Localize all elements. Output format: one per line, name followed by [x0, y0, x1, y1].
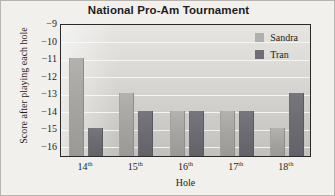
x-tick-suffix: th	[288, 160, 293, 167]
x-tick-number: 17	[228, 161, 238, 172]
bar-sandra-17th	[220, 111, 235, 157]
x-axis-tick-label: 18th	[278, 161, 293, 172]
x-axis-tick-labels: 14th15th16th17th18th	[60, 161, 311, 175]
x-tick-suffix: th	[88, 160, 93, 167]
plot-area: SandraTran	[60, 24, 311, 157]
y-axis-tick-label: −12	[25, 72, 57, 82]
bar-sandra-18th	[270, 128, 285, 156]
bar-sandra-15th	[119, 93, 134, 156]
y-axis-tick-label: −14	[25, 107, 57, 117]
x-axis-tick-label: 14th	[78, 161, 93, 172]
x-tick-number: 14	[78, 161, 88, 172]
x-axis-tick-label: 15th	[128, 161, 143, 172]
bar-tran-14th	[88, 128, 103, 156]
bar-tran-15th	[138, 111, 153, 157]
legend-label: Sandra	[270, 32, 298, 43]
legend-label: Tran	[270, 49, 289, 60]
y-axis-tick-label: −16	[25, 142, 57, 152]
legend: SandraTran	[255, 32, 298, 60]
x-tick-number: 15	[128, 161, 138, 172]
x-tick-number: 18	[278, 161, 288, 172]
bar-sandra-16th	[170, 111, 185, 157]
chart-screenshot: National Pro-Am Tournament Score after p…	[0, 0, 335, 196]
y-axis-tick-label: −15	[25, 124, 57, 134]
y-axis-tick-labels: −9−10−11−12−13−14−15−16	[25, 19, 57, 157]
x-axis-tick-label: 16th	[178, 161, 193, 172]
legend-swatch-icon	[255, 33, 264, 42]
bar-tran-18th	[289, 93, 304, 156]
legend-swatch-icon	[255, 50, 264, 59]
chart-title: National Pro-Am Tournament	[1, 4, 335, 16]
x-tick-suffix: th	[188, 160, 193, 167]
bar-sandra-14th	[69, 58, 84, 156]
x-tick-suffix: th	[238, 160, 243, 167]
bar-tran-17th	[239, 111, 254, 157]
y-axis-tick-label: −9	[25, 19, 57, 29]
x-axis-tick-label: 17th	[228, 161, 243, 172]
x-axis-title: Hole	[60, 177, 311, 188]
legend-item-sandra[interactable]: Sandra	[255, 32, 298, 43]
y-axis-tick-label: −10	[25, 37, 57, 47]
y-axis-tick-label: −11	[25, 54, 57, 64]
legend-item-tran[interactable]: Tran	[255, 49, 298, 60]
x-tick-suffix: th	[138, 160, 143, 167]
y-axis-tick-label: −13	[25, 89, 57, 99]
bar-tran-16th	[189, 111, 204, 157]
x-tick-number: 16	[178, 161, 188, 172]
